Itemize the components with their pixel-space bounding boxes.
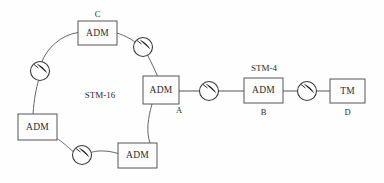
chain-tm-d-text: TM	[340, 86, 355, 96]
ring-adm-hub-label: A	[176, 105, 183, 115]
ring-adm-hub-text: ADM	[150, 85, 173, 95]
ring-adm-top-text: ADM	[86, 28, 109, 38]
ring-arc-e-upper	[148, 55, 158, 76]
ring-arc-s	[91, 151, 118, 154]
ring-adm-top[interactable]: ADM C	[78, 9, 117, 45]
ring-adm-top-label: C	[95, 9, 101, 19]
stm4-chain-label: STM-4	[251, 63, 278, 73]
ring-adm-bottom[interactable]: ADM	[118, 143, 157, 168]
regen-chain-2-icon[interactable]	[298, 82, 317, 101]
ring-arc-e-lower	[148, 104, 152, 143]
diagram-canvas: ADM C ADM ADM ADM A ADM B TM	[0, 0, 384, 183]
ring-arc-nw	[42, 33, 79, 63]
chain-adm-b-text: ADM	[252, 85, 275, 95]
regen-chain-1-icon[interactable]	[200, 82, 219, 101]
chain-adm-b-label: B	[261, 107, 267, 117]
ring-arc-sw	[57, 139, 74, 153]
ring-adm-left[interactable]: ADM	[18, 114, 57, 140]
ring-adm-hub[interactable]: ADM A	[143, 76, 183, 115]
ring-adm-bottom-text: ADM	[126, 150, 149, 160]
stm16-ring-label: STM-16	[85, 90, 116, 100]
regen-ring-nw-icon[interactable]	[31, 62, 50, 81]
regen-ring-ne-icon[interactable]	[134, 38, 153, 57]
chain-tm-d[interactable]: TM D	[330, 79, 365, 117]
chain-tm-d-label: D	[344, 107, 350, 117]
chain-adm-b[interactable]: ADM B	[244, 78, 283, 117]
ring-arc-w	[33, 81, 39, 115]
network-diagram: ADM C ADM ADM ADM A ADM B TM	[0, 0, 384, 183]
regen-ring-sw-icon[interactable]	[73, 146, 92, 165]
ring-adm-left-text: ADM	[26, 122, 49, 132]
ring-arc-ne	[117, 33, 137, 44]
